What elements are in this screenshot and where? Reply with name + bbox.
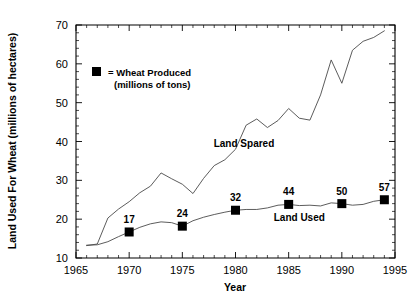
x-tick-label: 1995 xyxy=(383,264,407,276)
legend-label-line1: = Wheat Produced xyxy=(108,67,191,78)
x-tick-label: 1970 xyxy=(117,264,141,276)
y-tick-label: 50 xyxy=(56,97,68,109)
x-tick-label: 1975 xyxy=(170,264,194,276)
y-tick-label: 40 xyxy=(56,136,68,148)
legend-label-line2: (millions of tons) xyxy=(114,79,191,90)
y-tick-label: 60 xyxy=(56,58,68,70)
wheat-produced-marker xyxy=(337,199,346,208)
wheat-produced-value-label: 24 xyxy=(177,208,189,219)
wheat-produced-marker xyxy=(284,200,293,209)
x-tick-label: 1980 xyxy=(223,264,247,276)
x-axis-title: Year xyxy=(224,281,246,293)
y-tick-label: 70 xyxy=(56,19,68,31)
x-tick-label: 1990 xyxy=(330,264,354,276)
wheat-produced-marker xyxy=(125,227,134,236)
x-tick-label: 1965 xyxy=(64,264,88,276)
wheat-produced-marker xyxy=(380,195,389,204)
wheat-produced-value-label: 32 xyxy=(230,192,242,203)
wheat-produced-value-label: 50 xyxy=(336,186,348,197)
legend-square-icon xyxy=(92,67,101,76)
wheat-produced-marker xyxy=(178,222,187,231)
wheat-produced-value-label: 17 xyxy=(124,214,136,225)
x-tick-label: 1985 xyxy=(276,264,300,276)
land-used-label: Land Used xyxy=(274,212,325,223)
wheat-land-use-line-chart: 1965197019751980198519901995 10203040506… xyxy=(0,0,419,302)
wheat-produced-value-label: 57 xyxy=(379,182,391,193)
y-tick-label: 30 xyxy=(56,174,68,186)
y-tick-label: 20 xyxy=(56,213,68,225)
y-axis-title: Land Used For Wheat (millions of hectare… xyxy=(6,33,18,249)
land-spared-label: Land Spared xyxy=(214,138,275,149)
chart-figure: 1965197019751980198519901995 10203040506… xyxy=(0,0,419,302)
wheat-produced-value-label: 44 xyxy=(283,186,295,197)
y-tick-label: 10 xyxy=(56,252,68,264)
wheat-produced-marker xyxy=(231,206,240,215)
